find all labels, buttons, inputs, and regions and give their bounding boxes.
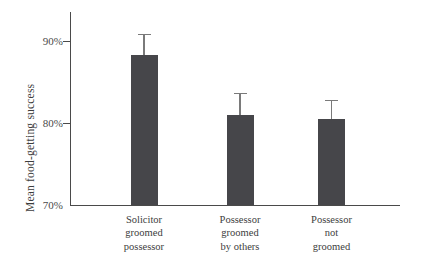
y-tick-label-80: 80% [5,118,63,129]
y-tick-80: 80% [0,118,63,129]
x-tick-label-0: Solicitor groomed possessor [94,213,194,254]
bar-possessor-not-groomed[interactable] [318,119,345,205]
y-tick-label-70: 70% [5,200,63,211]
x-axis-line [70,205,400,206]
error-bar-cap-0 [138,34,151,35]
y-tick-90: 90% [0,36,63,47]
x-tick-label-2: Possessor not groomed [282,213,382,254]
y-tick-mark-90 [63,41,71,42]
y-tick-70: 70% [0,200,63,211]
bar-chart-figure: Mean food-getting success 90% 80% 70% So… [0,0,429,262]
error-bar-stem-2 [331,100,332,119]
error-bar-stem-1 [239,93,240,116]
error-bar-stem-0 [143,34,144,55]
y-tick-label-90: 90% [5,36,63,47]
error-bar-cap-2 [325,100,338,101]
bar-solicitor-groomed-possessor[interactable] [131,55,158,205]
x-tick-label-1: Possessor groomed by others [190,213,290,254]
bar-possessor-groomed-by-others[interactable] [227,115,254,204]
y-tick-mark-80 [63,123,71,124]
error-bar-cap-1 [234,93,247,94]
